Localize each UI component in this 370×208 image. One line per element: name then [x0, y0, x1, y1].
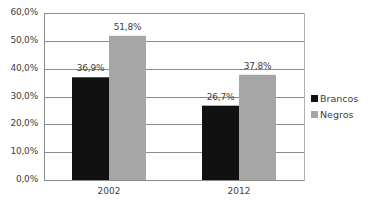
data-label: 51,8% — [103, 22, 153, 32]
legend-label-negros: Negros — [320, 109, 353, 120]
legend-swatch-brancos-icon — [311, 95, 318, 102]
legend-label-brancos: Brancos — [320, 93, 358, 104]
x-tick-label: 2012 — [209, 186, 269, 196]
legend: Brancos Negros — [311, 90, 358, 122]
data-label: 37,8% — [233, 61, 283, 71]
y-tick-label: 10,0% — [0, 146, 38, 156]
y-tick-label: 0,0% — [0, 174, 38, 184]
y-tick-label: 40,0% — [0, 63, 38, 73]
x-tick-label: 2002 — [79, 186, 139, 196]
legend-item-negros: Negros — [311, 106, 358, 122]
bar-brancos-2012 — [202, 106, 239, 180]
y-tick-label: 50,0% — [0, 35, 38, 45]
y-tick-label: 20,0% — [0, 118, 38, 128]
legend-item-brancos: Brancos — [311, 90, 358, 106]
y-tick-label: 30,0% — [0, 91, 38, 101]
bar-negros-2002 — [109, 36, 146, 180]
data-label: 36,9% — [66, 63, 116, 73]
bar-negros-2012 — [239, 75, 276, 180]
bar-brancos-2002 — [72, 77, 109, 180]
legend-swatch-negros-icon — [311, 111, 318, 118]
data-label: 26,7% — [196, 92, 246, 102]
y-tick-label: 60,0% — [0, 7, 38, 17]
